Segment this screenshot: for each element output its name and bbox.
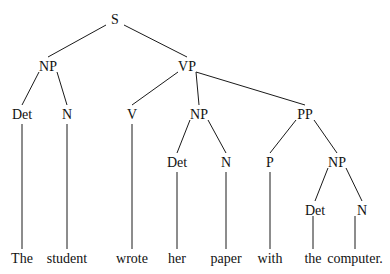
- node-label-n1: N: [62, 107, 72, 122]
- node-label-v: V: [127, 107, 137, 122]
- edge-np1-det1: [22, 72, 39, 105]
- node-label-n3: N: [357, 203, 367, 218]
- tree-words: Thestudentwroteherpaperwiththecomputer.: [11, 251, 383, 266]
- edge-np3-det3: [315, 168, 328, 201]
- edge-np3-n3: [346, 168, 362, 201]
- word-w6: with: [258, 251, 283, 266]
- syntax-tree-diagram: SNPVPDetNVNPPPDetNPNPDetN Thestudentwrot…: [0, 0, 390, 274]
- node-label-det2: Det: [167, 155, 187, 170]
- edge-pp-np3: [314, 120, 337, 153]
- node-label-det1: Det: [12, 107, 32, 122]
- edge-s-np1: [48, 25, 106, 57]
- node-label-np2: NP: [190, 107, 208, 122]
- edge-pp-p: [270, 120, 296, 153]
- node-label-det3: Det: [305, 203, 325, 218]
- edge-vp-np2: [196, 72, 199, 105]
- node-label-s: S: [111, 12, 119, 27]
- edge-vp-pp: [196, 72, 305, 105]
- node-label-n2: N: [221, 155, 231, 170]
- edge-np2-n2: [208, 120, 226, 153]
- node-label-p: P: [266, 155, 274, 170]
- word-w5: paper: [210, 251, 241, 266]
- edge-np1-n1: [57, 72, 67, 105]
- word-w7: the: [304, 251, 321, 266]
- tree-nodes: SNPVPDetNVNPPPDetNPNPDetN: [12, 12, 367, 218]
- word-w1: The: [11, 251, 33, 266]
- edge-s-vp: [124, 25, 187, 57]
- edge-vp-v: [132, 72, 178, 105]
- word-w4: her: [168, 251, 186, 266]
- word-w3: wrote: [116, 251, 148, 266]
- edge-np2-det2: [177, 120, 190, 153]
- word-w2: student: [47, 251, 88, 266]
- word-w8: computer.: [327, 251, 383, 266]
- node-label-vp: VP: [178, 59, 196, 74]
- node-label-pp: PP: [297, 107, 313, 122]
- node-label-np3: NP: [328, 155, 346, 170]
- node-label-np1: NP: [39, 59, 57, 74]
